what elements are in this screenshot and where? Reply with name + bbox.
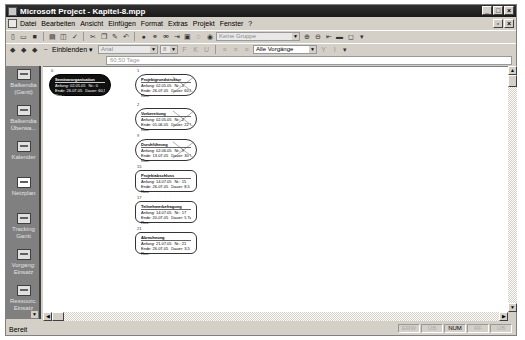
menu-format[interactable]: Format (141, 20, 163, 27)
scroll-left-button[interactable]: ◀ (43, 312, 52, 321)
network-node[interactable]: Projektabschluss Anfang: 14.07.05Nr.: 15… (135, 170, 197, 192)
format-painter-icon[interactable]: ✎ (110, 32, 119, 41)
document-icon[interactable] (8, 19, 17, 28)
gantt-tracking-icon (17, 105, 31, 116)
indent-icon[interactable]: ◆ (19, 45, 28, 54)
vertical-scrollbar[interactable]: ▲ ▼ (508, 66, 517, 312)
gantt-wizard-icon[interactable]: ⌇ (330, 45, 339, 54)
task-info-icon[interactable]: ▣ (183, 32, 192, 41)
scroll-thumb[interactable] (508, 75, 517, 87)
node-duration: Dauer: 8,5 Tage (171, 184, 191, 189)
status-bar: Bereit ERW ÜB NUM RF ÜB (6, 323, 516, 335)
outdent-icon[interactable]: ◆ (8, 45, 17, 54)
unlink-icon[interactable]: ⚮ (161, 32, 170, 41)
spelling-icon[interactable]: ✓ (70, 32, 79, 41)
menu-extras[interactable]: Extras (168, 20, 188, 27)
menu-projekt[interactable]: Projekt (193, 20, 215, 27)
node-id-label: 21 (137, 226, 141, 231)
view-label: Balkendia Überwa... (6, 118, 41, 132)
size-combo[interactable]: 8▼ (160, 45, 178, 54)
close-button[interactable]: × (504, 6, 514, 15)
italic-button[interactable]: K (191, 45, 200, 54)
chevron-down-icon[interactable]: ▼ (150, 46, 157, 53)
goto-task-icon[interactable]: ⇤ (324, 32, 333, 41)
align-right-icon[interactable]: ≡ (242, 45, 251, 54)
scroll-down-button[interactable]: ▼ (508, 303, 517, 312)
network-node[interactable]: Teilnehmerbefragung Anfang: 14.07.05Nr.:… (135, 201, 197, 223)
view-task-usage[interactable]: Vorgang: Einsatz (6, 246, 41, 282)
copy-icon[interactable]: ❐ (99, 32, 108, 41)
maximize-button[interactable]: □ (493, 6, 503, 15)
menu-bearbeiten[interactable]: Bearbeiten (41, 20, 75, 27)
network-diagram-canvas[interactable]: 0 Seminarorganisation Anfang: 02.05.05Nr… (43, 66, 508, 312)
filter-combo[interactable]: Alle Vorgänge▼ (253, 45, 317, 54)
chevron-down-icon[interactable]: ▼ (170, 46, 177, 53)
doc-close-button[interactable]: × (504, 19, 514, 28)
zoom-in-icon[interactable]: ⊕ (302, 32, 311, 41)
zoom-out-icon[interactable]: ⊖ (313, 32, 322, 41)
task-usage-icon (17, 249, 31, 260)
menu-datei[interactable]: Datei (20, 20, 36, 27)
app-icon[interactable] (8, 7, 17, 16)
scroll-thumb[interactable] (52, 312, 64, 321)
entry-field[interactable]: 60,50 Tage (106, 56, 512, 65)
network-node[interactable]: Vorbereitung Anfang: 02.05.05Nr.: 2 Ende… (135, 108, 197, 130)
doc-restore-button[interactable]: ▫ (493, 19, 503, 28)
menu-einfuegen[interactable]: Einfügen (108, 20, 136, 27)
new-icon[interactable]: ▯ (8, 32, 17, 41)
menu-fenster[interactable]: Fenster (220, 20, 244, 27)
view-gantt-tracking[interactable]: Balkendia Überwa... (6, 102, 41, 138)
view-gantt[interactable]: Balkendia (Gantt) (6, 66, 41, 102)
view-calendar[interactable]: Kalender (6, 138, 41, 174)
font-combo[interactable]: Arial▼ (98, 45, 158, 54)
view-bar-more-button[interactable]: ▼ (31, 311, 38, 318)
network-node-selected[interactable]: Seminarorganisation Anfang: 02.05.05Nr.:… (49, 74, 111, 96)
chevron-down-icon[interactable]: ▼ (309, 46, 316, 53)
hide-subtasks-icon[interactable]: − (41, 45, 50, 54)
scroll-up-button[interactable]: ▲ (508, 66, 517, 75)
toolbar-options-icon[interactable]: ▾ (357, 32, 366, 41)
view-label: Vorgang: Einsatz (6, 262, 41, 276)
node-duration: Dauer: 22 Tage (171, 122, 191, 127)
underline-button[interactable]: U (202, 45, 211, 54)
split-icon[interactable]: ⇥ (172, 32, 181, 41)
network-node[interactable]: Projektgrundstruktur Anfang: 02.05.05Nr.… (135, 74, 197, 96)
align-left-icon[interactable]: ≡ (220, 45, 229, 54)
title-bar[interactable]: Microsoft Project - Kapitel-8.mpp _ □ × (6, 5, 516, 17)
show-subtasks-icon[interactable]: ◆ (30, 45, 39, 54)
link-icon[interactable]: ⚭ (150, 32, 159, 41)
minimize-button[interactable]: _ (482, 6, 492, 15)
cut-icon[interactable]: ✂ (88, 32, 97, 41)
network-node[interactable]: Durchführung Anfang: 02.06.05Nr.: 9 Ende… (135, 139, 197, 161)
view-network[interactable]: Netzplan (6, 174, 41, 210)
formatting-toolbar: ◆ ◆ ◆ − Einblenden ▾ Arial▼ 8▼ F K U ≡ ≡… (6, 43, 516, 55)
entry-bar-spacer (6, 56, 106, 65)
notes-icon[interactable]: ◌ (194, 32, 203, 41)
show-dropdown[interactable]: Einblenden ▾ (52, 46, 93, 54)
hyperlink-icon[interactable]: ● (139, 32, 148, 41)
autofilter-icon[interactable]: Y (319, 45, 328, 54)
network-node[interactable]: Abrechnung Anfang: 21.07.05Nr.: 21 Ende:… (135, 232, 197, 254)
scroll-right-button[interactable]: ▶ (499, 312, 508, 321)
node-id-label: 9 (137, 133, 139, 138)
node-resources: Res.: (55, 93, 64, 98)
menu-ansicht[interactable]: Ansicht (80, 20, 103, 27)
node-id-label: 17 (137, 195, 141, 200)
chevron-down-icon[interactable]: ▼ (292, 33, 299, 40)
print-preview-icon[interactable]: ◫ (59, 32, 68, 41)
wizard-icon[interactable]: ◻ (346, 32, 355, 41)
group-combo[interactable]: Keine Gruppe▼ (216, 32, 300, 41)
save-icon[interactable]: ■ (30, 32, 39, 41)
undo-icon[interactable]: ↶ (121, 32, 130, 41)
view-tracking-gantt[interactable]: Tracking Gantt (6, 210, 41, 246)
menu-help[interactable]: ? (248, 20, 252, 27)
bold-button[interactable]: F (180, 45, 189, 54)
print-icon[interactable]: ▤ (48, 32, 57, 41)
node-resources: Res.: (141, 189, 150, 194)
open-icon[interactable]: ▭ (19, 32, 28, 41)
copy-picture-icon[interactable]: ▬ (335, 32, 344, 41)
align-center-icon[interactable]: ≡ (231, 45, 240, 54)
toolbar-options-icon[interactable]: ▾ (341, 45, 350, 54)
horizontal-scrollbar[interactable]: ◀ ▶ (43, 312, 508, 321)
assign-resources-icon[interactable]: ◉ (205, 32, 214, 41)
